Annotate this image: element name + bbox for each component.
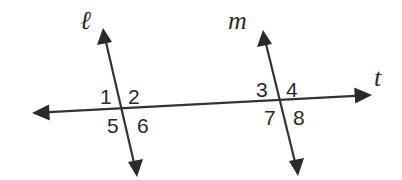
parallel-lines-transversal-diagram: ℓ m t 1 2 5 6 3 4 7 8 bbox=[0, 0, 402, 180]
arrowhead-up-icon bbox=[257, 30, 272, 47]
angle-label-6: 6 bbox=[137, 114, 149, 137]
angle-label-2: 2 bbox=[128, 85, 140, 108]
line-m bbox=[257, 30, 304, 176]
arrowhead-left-icon bbox=[32, 105, 50, 121]
arrowhead-down-icon bbox=[128, 159, 143, 177]
angle-label-8: 8 bbox=[293, 106, 305, 129]
label-line-m: m bbox=[228, 6, 247, 35]
arrowhead-down-icon bbox=[289, 158, 304, 176]
arrowhead-right-icon bbox=[354, 88, 372, 104]
label-line-t: t bbox=[374, 63, 382, 92]
angle-label-3: 3 bbox=[256, 78, 268, 101]
angle-label-5: 5 bbox=[107, 114, 119, 137]
label-line-l: ℓ bbox=[80, 6, 91, 35]
line-t bbox=[32, 88, 372, 121]
angle-label-1: 1 bbox=[100, 85, 112, 108]
angle-label-7: 7 bbox=[264, 106, 276, 129]
angle-label-4: 4 bbox=[286, 78, 298, 101]
arrowhead-up-icon bbox=[97, 28, 112, 45]
